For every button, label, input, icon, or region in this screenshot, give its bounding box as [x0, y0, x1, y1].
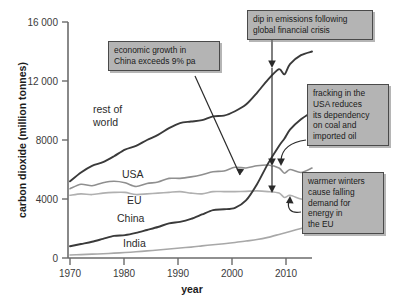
- series-line-eu: [70, 191, 312, 201]
- series-inline-labels: rest of world USA EU China India: [92, 103, 146, 249]
- arrowhead-china-growth: [236, 168, 244, 175]
- series-label-rest-of-world-line1: rest of: [93, 103, 122, 115]
- annotation-financial-crisis-dip: dip in emissions following global financ…: [247, 10, 373, 40]
- x-tick-label-1980: 1980: [113, 268, 136, 279]
- series-label-rest-of-world-line2: world: [92, 116, 118, 128]
- leader-china-growth: [195, 76, 240, 175]
- series-line-usa: [70, 165, 312, 189]
- leader-fracking-usa: [281, 140, 306, 160]
- series-lines: [70, 52, 312, 256]
- y-axis-title: carbon dioxide (million tonnes): [16, 62, 28, 218]
- y-tick-label-4000: 4000: [36, 194, 59, 205]
- series-label-india: India: [123, 237, 146, 249]
- series-label-usa: USA: [122, 168, 144, 180]
- co2-emissions-chart: 0 4000 8000 12 000 16 000 1970 1980 1990…: [0, 0, 397, 302]
- arrowhead-dip-rest-of-world: [268, 61, 276, 69]
- series-label-eu: EU: [127, 194, 142, 206]
- x-tick-label-2000: 2000: [221, 268, 244, 279]
- x-tick-label-1990: 1990: [167, 268, 190, 279]
- arrowhead-fracking-usa: [277, 159, 285, 166]
- annotation-eu-warm-winters: warmer winters cause falling demand for …: [302, 172, 384, 234]
- y-tick-label-16000: 16 000: [27, 17, 58, 28]
- x-tick-label-1970: 1970: [59, 268, 82, 279]
- y-tick-label-12000: 12 000: [27, 76, 58, 87]
- series-line-india: [70, 226, 312, 256]
- y-tick-label-8000: 8000: [36, 135, 59, 146]
- series-line-china: [70, 112, 312, 246]
- annotation-usa-fracking: fracking in the USA reduces its dependen…: [307, 84, 389, 146]
- y-axis-ticks: 0 4000 8000 12 000 16 000: [27, 17, 68, 264]
- x-axis-ticks: 1970 1980 1990 2000 2010: [59, 258, 298, 279]
- y-tick-label-0: 0: [52, 253, 58, 264]
- series-label-china: China: [117, 212, 145, 224]
- x-axis-title: year: [181, 283, 203, 295]
- x-tick-label-2010: 2010: [275, 268, 298, 279]
- annotation-china-growth: economic growth in China exceeds 9% pa: [108, 41, 220, 71]
